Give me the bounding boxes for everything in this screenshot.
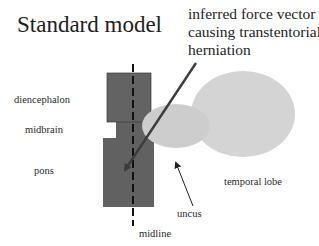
force-vector-annotation: inferred force vector causing transtento…	[188, 5, 319, 59]
annotation-line-2: causing transtentorial	[188, 23, 319, 41]
diencephalon-block	[107, 73, 151, 122]
label-pons: pons	[34, 166, 54, 177]
pons-block	[103, 138, 154, 207]
diagram-canvas: Standard model inferred force vector cau…	[0, 0, 319, 246]
temporal-lobe-shape	[191, 71, 295, 157]
uncus-pointer-arrow	[176, 163, 193, 206]
label-temporal-lobe: temporal lobe	[224, 177, 282, 188]
uncus-shape	[142, 104, 210, 148]
label-diencephalon: diencephalon	[14, 95, 70, 106]
label-uncus: uncus	[177, 209, 202, 220]
diagram-title: Standard model	[17, 13, 162, 36]
label-midline: midline	[139, 229, 171, 240]
label-midbrain: midbrain	[25, 125, 63, 136]
annotation-line-1: inferred force vector	[188, 5, 319, 23]
annotation-line-3: herniation	[188, 41, 319, 59]
